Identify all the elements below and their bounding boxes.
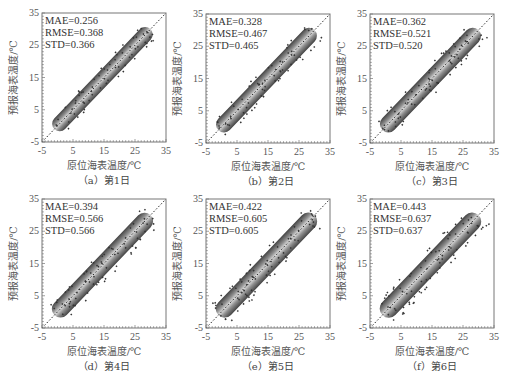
y-tick-label: 15 — [357, 73, 367, 84]
scatter-panel-b: -55152535-55152535MAE=0.328RMSE=0.467STD… — [166, 4, 334, 192]
x-tick-label: 5 — [71, 331, 76, 342]
y-tick-label: 5 — [198, 105, 203, 116]
y-tick-label: 35 — [193, 193, 203, 204]
y-tick-label: 35 — [193, 8, 203, 19]
y-tick-label: 5 — [362, 105, 367, 116]
x-tick-label: 15 — [99, 145, 109, 156]
x-tick-label: 25 — [294, 331, 304, 342]
y-tick-label: -5 — [31, 136, 39, 147]
x-tick-label: 15 — [263, 331, 273, 342]
stat-std: STD=0.605 — [209, 225, 258, 236]
panel-caption: （f）第6日 — [348, 358, 508, 373]
stat-mae: MAE=0.328 — [209, 16, 262, 27]
scatter-plot: -55152535-55152535MAE=0.328RMSE=0.467STD… — [166, 4, 341, 194]
stat-std: STD=0.566 — [45, 225, 94, 236]
y-tick-label: 25 — [193, 225, 203, 236]
x-axis-title: 原位海表温度/℃ — [67, 345, 142, 357]
y-tick-label: 5 — [34, 104, 39, 115]
stat-std: STD=0.520 — [373, 40, 422, 51]
panel-caption: （d）第4日 — [20, 358, 188, 373]
y-tick-label: 35 — [357, 8, 367, 19]
y-tick-label: 5 — [362, 290, 367, 301]
scatter-panel-c: -55152535-55152535MAE=0.362RMSE=0.521STD… — [330, 4, 498, 192]
x-axis-title: 原位海表温度/℃ — [67, 159, 142, 171]
x-tick-label: 25 — [458, 146, 468, 157]
y-tick-label: 25 — [29, 39, 39, 50]
stat-rmse: RMSE=0.368 — [45, 27, 103, 38]
stat-std: STD=0.366 — [45, 39, 94, 50]
x-tick-label: 15 — [427, 146, 437, 157]
stat-std: STD=0.637 — [373, 225, 422, 236]
scatter-panel-a: -55152535-55152535MAE=0.256RMSE=0.368STD… — [2, 3, 170, 191]
x-tick-label: -5 — [366, 331, 374, 342]
y-tick-label: 15 — [29, 258, 39, 269]
x-tick-label: -5 — [38, 331, 46, 342]
x-tick-label: 35 — [489, 146, 499, 157]
y-tick-label: 15 — [357, 258, 367, 269]
y-tick-label: 35 — [29, 7, 39, 18]
scatter-panel-e: -55152535-55152535MAE=0.422RMSE=0.605STD… — [166, 189, 334, 377]
x-axis-title: 原位海表温度/℃ — [231, 160, 306, 172]
y-axis-title: 预报海表温度/℃ — [171, 226, 183, 301]
y-tick-label: -5 — [359, 137, 367, 148]
x-tick-label: 25 — [130, 331, 140, 342]
y-tick-label: -5 — [195, 137, 203, 148]
stat-rmse: RMSE=0.637 — [373, 213, 431, 224]
stat-mae: MAE=0.394 — [45, 201, 99, 212]
y-tick-label: 15 — [193, 73, 203, 84]
panel-caption: （c）第3日 — [348, 173, 508, 188]
stat-std: STD=0.465 — [209, 40, 258, 51]
x-tick-label: 35 — [489, 331, 499, 342]
y-tick-label: 35 — [29, 193, 39, 204]
y-tick-label: 15 — [193, 258, 203, 269]
y-axis-title: 预报海表温度/℃ — [335, 226, 347, 301]
y-tick-label: -5 — [31, 322, 39, 333]
scatter-panel-f: -55152535-55152535MAE=0.443RMSE=0.637STD… — [330, 189, 498, 377]
scatter-panel-d: -55152535-55152535MAE=0.394RMSE=0.566STD… — [2, 189, 170, 377]
y-tick-label: -5 — [359, 322, 367, 333]
panel-caption: （b）第2日 — [184, 173, 352, 188]
scatter-plot: -55152535-55152535MAE=0.422RMSE=0.605STD… — [166, 189, 341, 379]
x-tick-label: 5 — [399, 331, 404, 342]
stat-mae: MAE=0.256 — [45, 15, 98, 26]
y-tick-label: 15 — [29, 72, 39, 83]
y-tick-label: -5 — [195, 322, 203, 333]
stat-rmse: RMSE=0.605 — [209, 213, 267, 224]
scatter-plot: -55152535-55152535MAE=0.394RMSE=0.566STD… — [2, 189, 177, 379]
panel-caption: （a）第1日 — [20, 172, 188, 187]
x-axis-title: 原位海表温度/℃ — [395, 160, 470, 172]
x-tick-label: -5 — [202, 331, 210, 342]
y-axis-title: 预报海表温度/℃ — [171, 41, 183, 116]
x-tick-label: 25 — [130, 145, 140, 156]
x-axis-title: 原位海表温度/℃ — [231, 345, 306, 357]
x-tick-label: 15 — [99, 331, 109, 342]
stat-mae: MAE=0.443 — [373, 201, 426, 212]
x-tick-label: 25 — [458, 331, 468, 342]
panel-caption: （e）第5日 — [184, 358, 352, 373]
y-axis-title: 预报海表温度/℃ — [7, 226, 19, 301]
y-tick-label: 35 — [357, 193, 367, 204]
x-tick-label: -5 — [202, 146, 210, 157]
y-tick-label: 5 — [198, 290, 203, 301]
scatter-plot: -55152535-55152535MAE=0.256RMSE=0.368STD… — [2, 3, 177, 193]
y-tick-label: 25 — [193, 40, 203, 51]
stat-mae: MAE=0.422 — [209, 201, 262, 212]
x-axis-title: 原位海表温度/℃ — [395, 345, 470, 357]
x-tick-label: 15 — [263, 146, 273, 157]
x-tick-label: -5 — [38, 145, 46, 156]
stat-mae: MAE=0.362 — [373, 16, 426, 27]
y-tick-label: 25 — [357, 40, 367, 51]
scatter-plot: -55152535-55152535MAE=0.362RMSE=0.521STD… — [330, 4, 505, 194]
x-tick-label: 15 — [427, 331, 437, 342]
y-axis-title: 预报海表温度/℃ — [335, 41, 347, 116]
y-axis-title: 预报海表温度/℃ — [7, 40, 19, 115]
y-tick-label: 5 — [34, 290, 39, 301]
stat-rmse: RMSE=0.467 — [209, 28, 267, 39]
x-tick-label: 5 — [399, 146, 404, 157]
x-tick-label: 5 — [235, 146, 240, 157]
x-tick-label: -5 — [366, 146, 374, 157]
y-tick-label: 25 — [357, 225, 367, 236]
x-tick-label: 5 — [235, 331, 240, 342]
stat-rmse: RMSE=0.566 — [45, 213, 103, 224]
y-tick-label: 25 — [29, 225, 39, 236]
